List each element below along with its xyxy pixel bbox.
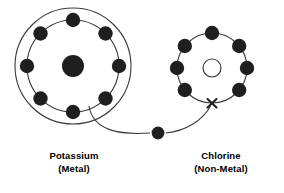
potassium-electron (66, 13, 80, 27)
chlorine-electron (178, 83, 192, 97)
potassium-electron (33, 26, 47, 40)
chlorine-label-name: Chlorine (157, 150, 284, 163)
potassium-label: Potassium (Metal) (10, 150, 138, 175)
chlorine-label: Chlorine (Non-Metal) (157, 150, 284, 175)
potassium-electron (98, 26, 112, 40)
diagram-canvas: Potassium (Metal) Chlorine (Non-Metal) (0, 0, 284, 193)
potassium-electron (112, 59, 126, 73)
chlorine-electron (232, 39, 246, 53)
electron-transfer-path (89, 106, 211, 139)
chlorine-label-classification: (Non-Metal) (157, 163, 284, 176)
potassium-electron (20, 59, 34, 73)
transfer-curve-right (166, 106, 211, 133)
potassium-label-classification: (Metal) (10, 163, 138, 176)
potassium-electron (66, 105, 80, 119)
chlorine-electron (170, 61, 184, 75)
chlorine-electron (178, 39, 192, 53)
chlorine-electron (240, 61, 254, 75)
transfer-curve-left (89, 106, 150, 133)
potassium-electron (33, 91, 47, 105)
chlorine-electron (205, 26, 219, 40)
chlorine-nucleus (203, 59, 221, 77)
transferred-electron (152, 127, 165, 140)
atom-potassium (15, 8, 131, 124)
chlorine-electron (232, 83, 246, 97)
potassium-electron (98, 91, 112, 105)
potassium-label-name: Potassium (10, 150, 138, 163)
potassium-nucleus (62, 55, 84, 77)
atom-chlorine (170, 26, 254, 108)
